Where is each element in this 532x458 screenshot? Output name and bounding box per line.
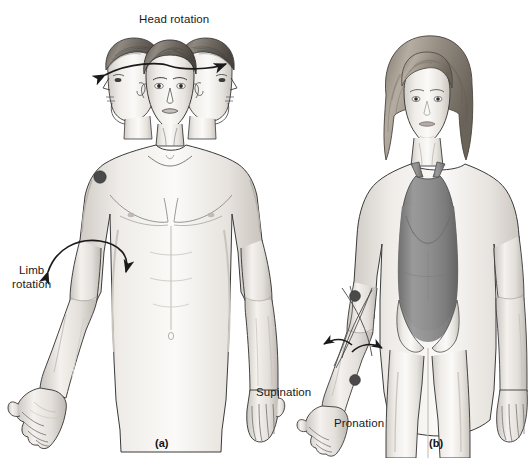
label-pronation: Pronation — [334, 417, 384, 430]
male-torso — [78, 145, 264, 452]
caption-panel-a: (a) — [155, 437, 168, 449]
female-wrist-marker-dot — [350, 375, 361, 386]
male-right-arm — [241, 240, 285, 442]
panel-b-art — [297, 36, 527, 458]
female-head — [402, 52, 453, 166]
label-limb-rotation-line2: rotation — [12, 278, 51, 291]
label-supination: Supination — [256, 386, 311, 399]
label-limb-rotation-line1: Limb — [19, 264, 44, 277]
anatomy-figure: Head rotation Limb rotation Supination P… — [0, 0, 532, 458]
caption-panel-b: (b) — [429, 437, 443, 449]
female-left-arm — [297, 282, 377, 456]
label-head-rotation: Head rotation — [139, 13, 209, 26]
panel-a-art — [8, 38, 285, 452]
female-elbow-marker-dot — [350, 291, 361, 302]
female-right-arm — [494, 236, 527, 442]
male-shoulder-marker-dot — [94, 171, 106, 183]
female-left-leg — [386, 350, 424, 458]
